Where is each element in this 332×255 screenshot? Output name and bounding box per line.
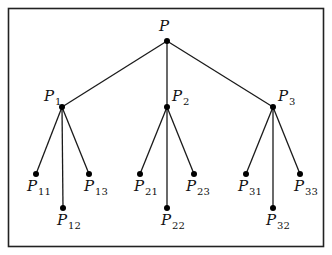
edge-p3-p31 [246,107,273,174]
label-p32: P32 [265,211,290,231]
tree-edges [36,41,300,208]
label-p33: P33 [293,177,318,197]
label-p21: P21 [133,177,158,197]
edge-p1-p12 [62,107,63,208]
tree-labels: PP1P2P3P11P12P13P21P22P23P31P32P33 [26,17,318,231]
edge-p1-p11 [36,107,62,174]
label-p31: P31 [237,177,262,197]
node-p [164,38,170,44]
label-p12: P12 [56,211,81,231]
edge-p1-p13 [62,107,89,174]
label-p1: P1 [43,87,61,107]
label-p2: P2 [171,87,189,107]
label-p3: P3 [277,87,295,107]
edge-p3-p33 [273,107,300,174]
node-p2 [164,104,170,110]
tree-diagram: PP1P2P3P11P12P13P21P22P23P31P32P33 [0,0,332,255]
tree-nodes [33,38,303,211]
label-p: P [158,17,170,35]
node-p3 [270,104,276,110]
label-p11: P11 [26,177,51,197]
label-p23: P23 [185,177,210,197]
edge-p2-p21 [140,107,167,174]
edge-p-p1 [62,41,167,107]
edge-p2-p23 [167,107,194,174]
label-p22: P22 [160,211,185,231]
label-p13: P13 [83,177,108,197]
